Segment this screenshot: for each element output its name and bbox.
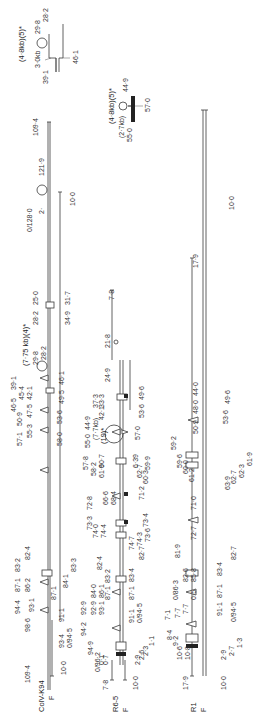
loop-icon [37, 185, 47, 195]
map-label: 61·9 [246, 452, 253, 466]
map-label: 48·0 [192, 400, 199, 414]
map-label: 44·9 [84, 416, 91, 430]
map-label: 7·7 [182, 604, 189, 614]
map-title: ColV-K94 [37, 680, 46, 712]
map-label: 87·1 [50, 586, 57, 600]
map-label: 49·6 [138, 386, 145, 400]
loop-icon [119, 102, 127, 110]
map-label: 93·1 [28, 598, 35, 612]
map-title: R1 [189, 702, 198, 712]
map-label: 91·1 [128, 609, 135, 623]
inset-1-label: 29·8 [34, 20, 41, 34]
map-label: 87·1 [14, 578, 21, 592]
map-label: 73·6 [144, 528, 151, 542]
map-label: 46·5 [10, 398, 17, 412]
map-label: 82·4 [96, 556, 103, 570]
inset-1-label: 3·0kb [34, 50, 41, 68]
map-label: 81·9 [174, 544, 181, 558]
map-label: 60·3 [142, 470, 149, 484]
map-label: 94·4 [14, 600, 21, 614]
map-label: 17·9 [192, 254, 199, 268]
map-label: 83·4 [128, 568, 135, 582]
map-label: 34·9 [64, 311, 71, 325]
map-label: 57·0 [134, 426, 141, 440]
map-label: 10·0 [69, 192, 76, 206]
map-label: 74·4 [100, 524, 107, 538]
map-r6-5: R6-5 F 7·8 10·0 0/96·2 94·9 0·1 0·7 2·9 … [80, 290, 155, 712]
map-label: 7·8 [108, 290, 115, 300]
map-label: 72·7 [190, 526, 197, 540]
map-label: 57·1 [16, 432, 23, 446]
map-label: 0·5 [190, 590, 197, 600]
map-label: 73·3 [86, 516, 93, 530]
map-label: 47·5 [26, 404, 33, 418]
map-label: 7·8 [102, 680, 109, 690]
map-label: 57·8 [82, 456, 89, 470]
map-label: 83·4 [216, 562, 223, 576]
inset-2: (4·8kb)(5)* (2·7kb) 55·0 44·9 57·0 [107, 78, 151, 142]
map-label: 73·4 [142, 513, 149, 527]
map-subtitle: F [122, 708, 129, 712]
inset-2-label: 44·9 [122, 78, 129, 92]
map-label: 59·2 [170, 436, 177, 450]
map-label: 24·9 [104, 368, 111, 382]
map-label: 29·8 [32, 351, 39, 365]
map-label: 6·39 [132, 454, 139, 468]
map-label: 10·0 [228, 196, 235, 210]
inset-1-label: 28·2 [42, 8, 49, 22]
map-label: 50·9 [192, 420, 199, 434]
inset-1-title: (4·8kb)(5)* [17, 26, 26, 62]
inset-2-label: (2·7kb) [118, 116, 126, 138]
map-label: 74·3 [136, 532, 143, 546]
map-label: 55·0 [84, 434, 91, 448]
genetic-map-diagram: (4·8kb)(5)* 3·0kb 29·8 28·2 39·1 46·1 (4… [0, 0, 259, 720]
map-label: 10·8 [184, 646, 191, 660]
map-label: 61·2 [188, 468, 195, 482]
map-label: 82·7 [138, 546, 145, 560]
map-label: 42·1 [26, 386, 33, 400]
map-label: 66·6 [102, 491, 109, 505]
map-label: 10·0 [220, 676, 227, 690]
map-label: 87·1 [104, 586, 111, 600]
map-label: 121·9 [38, 158, 45, 176]
map-label: 10·0 [132, 676, 139, 690]
map-subtitle: F [200, 708, 207, 712]
map-label: 53·6 [138, 404, 145, 418]
map-label: 46·1 [58, 371, 65, 385]
map-label: 86·2 [24, 578, 31, 592]
loop-icon [114, 340, 118, 344]
map-label: 68·4 [110, 491, 117, 505]
map-label: 0/94·5 [230, 602, 237, 622]
map-label: 58·2 [90, 462, 97, 476]
map-label: 83·3 [70, 558, 77, 572]
map-label: 2·9 [220, 650, 227, 660]
map-label: 0/94·5 [136, 603, 143, 623]
map-label: 60·7 [98, 454, 105, 468]
map-label: 93·4 [58, 634, 65, 648]
map-label: 82·7 [230, 546, 237, 560]
map-label: 10·0 [60, 661, 67, 675]
map-label: 21·8 [104, 334, 111, 348]
map-label: 9·2 [172, 636, 179, 646]
map-label: 50·9 [16, 412, 23, 426]
map-label: 62·3 [238, 464, 245, 478]
map-label: 98·6 [24, 618, 31, 632]
inset-2-label: 57·0 [144, 98, 151, 112]
map-subtitle: F [48, 696, 55, 700]
map-label: 28·2 [32, 311, 39, 325]
map-label: 8·4 [166, 630, 173, 640]
map-label: 92·9 [90, 601, 97, 615]
map-label: 25·0 [32, 291, 39, 305]
map-label: 91·1 [58, 608, 65, 622]
map-label: 85·8 [190, 568, 197, 582]
inset-2-title: (4·8kb)(5)* [107, 88, 116, 124]
map-label: 92·9 [80, 601, 87, 615]
map-label: 60·0 [182, 460, 189, 474]
map-label: 1·3 [236, 638, 243, 648]
map-label: 2·3 [142, 646, 149, 656]
map-label: 83·2 [14, 558, 21, 572]
map-label: 10·6 [176, 646, 183, 660]
map-label: 84·1 [62, 574, 69, 588]
map-label: 7·7 [174, 608, 181, 618]
map-label: 53·6 [56, 410, 63, 424]
